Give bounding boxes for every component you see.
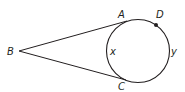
tangent-circle-diagram: B A D C x y [0,0,185,92]
label-a: A [117,9,125,20]
circle [107,20,170,83]
label-d: D [156,9,164,20]
point-d-dot [154,23,158,27]
label-arc-y: y [170,46,178,57]
label-c: C [118,81,125,92]
label-arc-x: x [109,46,116,57]
label-b: B [7,46,14,57]
